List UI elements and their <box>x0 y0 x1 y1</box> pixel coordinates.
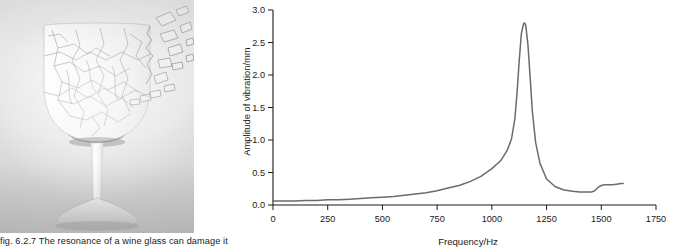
x-tick-label: 1250 <box>536 214 556 224</box>
x-tick-label: 250 <box>320 214 335 224</box>
x-axis-ticks: 02505007501000125015001750 <box>270 205 666 224</box>
x-tick-label: 500 <box>375 214 390 224</box>
photo-panel: fig. 6.2.7 The resonance of a wine glass… <box>0 0 194 234</box>
x-tick-label: 750 <box>429 214 444 224</box>
x-tick-label: 1500 <box>591 214 611 224</box>
y-tick-label: 0.0 <box>252 200 265 210</box>
y-tick-label: 3.0 <box>252 5 265 15</box>
x-tick-label: 1000 <box>482 214 502 224</box>
y-tick-label: 1.0 <box>252 135 265 145</box>
resonance-curve <box>273 23 623 201</box>
figure-caption: fig. 6.2.7 The resonance of a wine glass… <box>0 236 240 247</box>
resonance-chart: Amplitude of vibration/mm Frequency/Hz 0… <box>228 0 684 251</box>
y-tick-label: 2.5 <box>252 38 265 48</box>
resonance-figure: fig. 6.2.7 The resonance of a wine glass… <box>0 0 684 251</box>
x-tick-label: 0 <box>270 214 275 224</box>
x-tick-label: 1750 <box>646 214 666 224</box>
y-axis-ticks: 0.00.51.01.52.02.53.0 <box>252 5 273 210</box>
photo-vignette <box>0 0 194 233</box>
y-tick-label: 2.0 <box>252 70 265 80</box>
y-tick-label: 1.5 <box>252 103 265 113</box>
y-tick-label: 0.5 <box>252 168 265 178</box>
chart-plot-area: 0.00.51.01.52.02.53.0 025050075010001250… <box>228 0 684 251</box>
wine-glass-photo <box>0 0 194 233</box>
